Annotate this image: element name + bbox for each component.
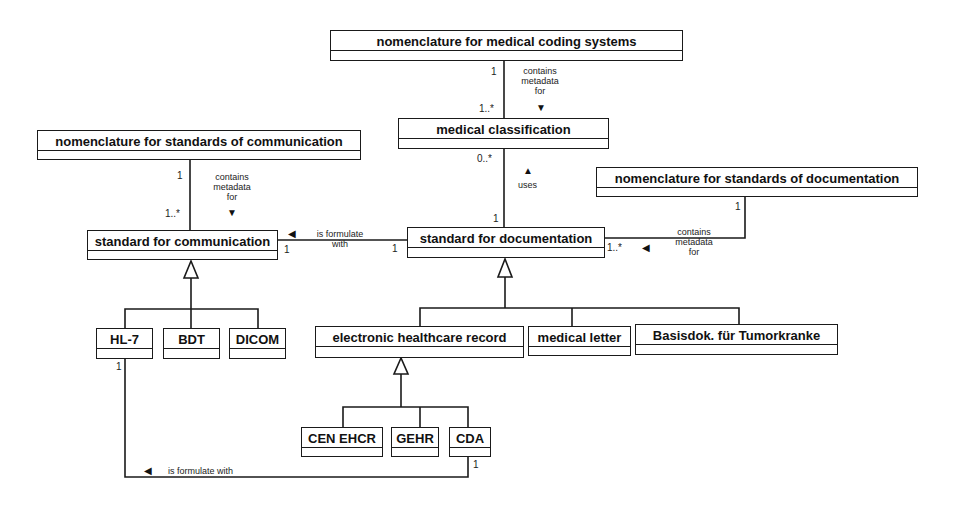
class-nomenclature-coding[interactable]: nomenclature for medical coding systems: [330, 30, 683, 61]
class-name: medical letter: [529, 327, 630, 347]
label-line: contains: [670, 227, 718, 237]
class-medical-classification[interactable]: medical classification: [398, 118, 609, 149]
class-medical-letter[interactable]: medical letter: [528, 326, 631, 356]
generalization-triangle-comm: [184, 261, 198, 278]
label-line: for: [210, 192, 254, 202]
generalization-triangle-ehr: [394, 358, 408, 374]
class-name: HL-7: [97, 329, 152, 349]
class-name: standard for documentation: [408, 228, 604, 248]
class-name: electronic healthcare record: [316, 327, 523, 347]
multiplicity: 1: [177, 170, 183, 181]
multiplicity: 1: [392, 243, 398, 254]
arrow-up-icon: ▲: [523, 166, 533, 176]
association-label-contains-metadata: contains metadata for: [518, 66, 562, 96]
arrow-left-icon: ◀: [144, 466, 152, 476]
label-line: is formulate: [310, 229, 370, 239]
multiplicity: 1: [116, 361, 122, 372]
association-label-uses: uses: [518, 180, 537, 190]
class-name: GEHR: [392, 428, 438, 448]
label-line: contains: [518, 66, 562, 76]
class-basisdok[interactable]: Basisdok. für Tumorkranke: [635, 324, 838, 355]
label-line: for: [518, 86, 562, 96]
label-line: metadata: [518, 76, 562, 86]
multiplicity: 1: [491, 66, 497, 77]
class-name: Basisdok. für Tumorkranke: [636, 325, 837, 345]
class-bdt[interactable]: BDT: [163, 328, 220, 359]
class-name: DICOM: [230, 329, 285, 349]
class-hl7[interactable]: HL-7: [96, 328, 153, 359]
class-dicom[interactable]: DICOM: [229, 328, 286, 359]
multiplicity: 1: [493, 213, 499, 224]
class-cda[interactable]: CDA: [449, 427, 491, 457]
class-name: medical classification: [399, 119, 608, 139]
class-name: BDT: [164, 329, 219, 349]
label-line: with: [310, 239, 370, 249]
class-electronic-healthcare-record[interactable]: electronic healthcare record: [315, 326, 524, 358]
association-label-is-formulate-with: is formulate with: [310, 229, 370, 249]
class-name: nomenclature for standards of communicat…: [38, 131, 360, 151]
arrow-down-icon: ▼: [536, 103, 546, 113]
generalization-triangle-doc: [498, 259, 512, 277]
class-name: standard for communication: [88, 231, 277, 251]
arrow-left-icon: ◀: [288, 229, 296, 239]
association-label-contains-metadata: contains metadata for: [670, 227, 718, 257]
multiplicity: 1: [735, 201, 741, 212]
multiplicity: 1: [473, 459, 479, 470]
class-cen-ehcr[interactable]: CEN EHCR: [301, 427, 383, 457]
multiplicity: 1: [284, 244, 290, 255]
association-label-contains-metadata: contains metadata for: [210, 172, 254, 202]
class-name: CDA: [450, 428, 490, 448]
label-line: for: [670, 247, 718, 257]
class-standard-documentation[interactable]: standard for documentation: [407, 227, 605, 258]
multiplicity: 0..*: [477, 153, 492, 164]
class-nomenclature-documentation[interactable]: nomenclature for standards of documentat…: [596, 167, 918, 197]
multiplicity: 1..*: [479, 103, 494, 114]
class-name: CEN EHCR: [302, 428, 382, 448]
arrow-down-icon: ▼: [227, 208, 237, 218]
label-line: metadata: [210, 182, 254, 192]
multiplicity: 1..*: [165, 208, 180, 219]
class-gehr[interactable]: GEHR: [391, 427, 439, 457]
class-nomenclature-communication[interactable]: nomenclature for standards of communicat…: [37, 130, 361, 160]
class-standard-communication[interactable]: standard for communication: [87, 230, 278, 260]
label-line: metadata: [670, 237, 718, 247]
arrow-left-icon: ◀: [642, 243, 650, 253]
class-name: nomenclature for medical coding systems: [331, 31, 682, 51]
multiplicity: 1..*: [607, 242, 622, 253]
label-line: contains: [210, 172, 254, 182]
association-label-is-formulate-with: is formulate with: [168, 466, 233, 476]
class-name: nomenclature for standards of documentat…: [597, 168, 917, 188]
